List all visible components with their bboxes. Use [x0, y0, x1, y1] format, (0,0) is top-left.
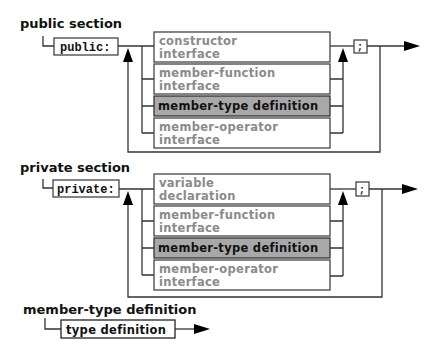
public-section: public section public: constructor inter… [20, 16, 420, 152]
alt-label: member-function [159, 66, 275, 80]
member-type-definition-title: member-type definition [23, 302, 197, 317]
up-arrow-icon [338, 48, 348, 62]
alt-label: constructor [159, 34, 237, 48]
alt-label: interface [159, 275, 220, 289]
type-definition-label: type definition [66, 323, 166, 337]
alt-label: declaration [159, 189, 236, 203]
public-section-title: public section [20, 16, 122, 31]
entry-line [43, 179, 53, 188]
semicolon: ; [357, 42, 363, 53]
private-section: private section private: variable declar… [20, 160, 418, 297]
alt-label: interface [159, 47, 220, 61]
up-arrow-icon [338, 191, 348, 205]
right-arrow-icon [402, 184, 418, 194]
alt-label: interface [159, 133, 220, 147]
syntax-diagram: public section public: constructor inter… [0, 0, 438, 362]
up-arrow-icon [123, 48, 133, 62]
alt-label: member-operator [159, 120, 278, 134]
alt-label: variable [159, 176, 214, 190]
public-keyword: public: [60, 41, 110, 55]
semicolon: ; [359, 185, 365, 196]
alt-label: member-operator [159, 262, 278, 276]
right-junction [330, 203, 343, 276]
private-keyword: private: [57, 183, 115, 197]
right-arrow-icon [194, 324, 210, 334]
alt-label: member-type definition [158, 99, 319, 113]
branch-lines [142, 79, 154, 133]
entry-line [45, 318, 61, 329]
up-arrow-icon [123, 191, 133, 205]
alt-label: interface [159, 221, 220, 235]
alt-label: interface [159, 79, 220, 93]
right-arrow-icon [404, 41, 420, 51]
entry-line [43, 36, 54, 46]
private-section-title: private section [20, 160, 130, 175]
member-type-definition-section: member-type definition type definition [23, 302, 210, 338]
branch-lines [142, 221, 154, 275]
alt-label: member-type definition [158, 241, 319, 255]
right-junction [330, 60, 343, 133]
alt-label: member-function [159, 208, 275, 222]
